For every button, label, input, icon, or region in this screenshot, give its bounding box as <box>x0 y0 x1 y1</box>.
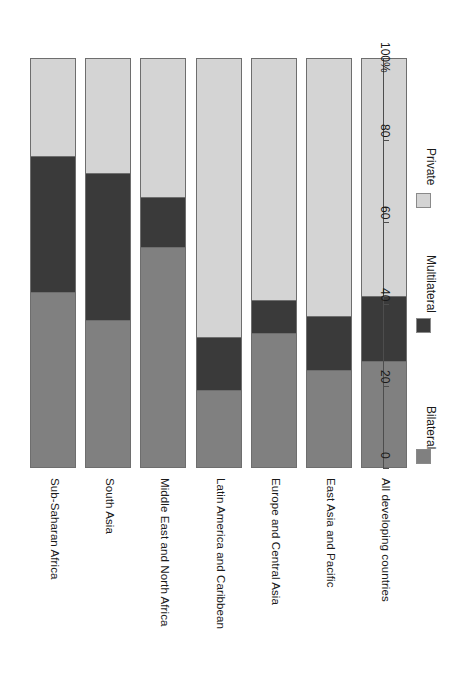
bar-segment-bilateral <box>85 320 131 468</box>
bar-segment-multilateral <box>251 300 297 333</box>
axis-tick <box>383 304 389 305</box>
plot-area: Sub-Saharan AfricaSouth AsiaMiddle East … <box>0 0 380 688</box>
category-label: East Asia and Pacific <box>325 478 337 588</box>
axis-tick <box>383 222 389 223</box>
bar-segment-multilateral <box>140 197 186 246</box>
axis-tick <box>383 468 389 469</box>
stacked-bar-chart: Sub-Saharan AfricaSouth AsiaMiddle East … <box>0 0 466 688</box>
value-axis-line <box>383 58 384 468</box>
bar-segment-multilateral <box>361 296 407 362</box>
bar-segment-private <box>140 58 186 197</box>
category-label: Sub-Saharan Africa <box>49 478 61 580</box>
bar-segment-multilateral <box>196 337 242 390</box>
bar-column: All developing countries <box>361 0 407 688</box>
bar-column: Europe and Central Asia <box>251 0 297 688</box>
bar-segment-multilateral <box>306 316 352 369</box>
bar-segment-private <box>361 58 407 296</box>
chart-legend: BilateralMultilateralPrivate <box>408 0 466 688</box>
axis-tick-label: 60 <box>378 206 392 219</box>
axis-tick-label: 40 <box>378 288 392 301</box>
bar-segment-private <box>196 58 242 337</box>
bar-segment-bilateral <box>196 390 242 468</box>
legend-swatch-private <box>416 193 431 208</box>
legend-label-multilateral: Multilateral <box>424 255 438 313</box>
bar-column: Latin America and Caribbean <box>196 0 242 688</box>
axis-tick <box>383 140 389 141</box>
legend-swatch-multilateral <box>416 318 431 333</box>
bar-segment-multilateral <box>30 156 76 291</box>
category-label: Europe and Central Asia <box>270 478 282 605</box>
axis-tick <box>383 386 389 387</box>
axis-tick-label: 100% <box>378 42 392 73</box>
bar-segment-bilateral <box>30 292 76 468</box>
bar-segment-private <box>85 58 131 173</box>
bar-segment-private <box>306 58 352 316</box>
bar-column: East Asia and Pacific <box>306 0 352 688</box>
category-label: Latin America and Caribbean <box>215 478 227 629</box>
category-label: South Asia <box>104 478 116 534</box>
bar-segment-bilateral <box>306 370 352 468</box>
bar-segment-private <box>30 58 76 156</box>
bar-column: Sub-Saharan Africa <box>30 0 76 688</box>
bar-column: South Asia <box>85 0 131 688</box>
legend-swatch-bilateral <box>416 449 431 464</box>
bar-segment-multilateral <box>85 173 131 321</box>
category-label: Middle East and North Africa <box>159 478 171 627</box>
category-label: All developing countries <box>380 478 392 602</box>
bar-segment-private <box>251 58 297 300</box>
axis-tick-label: 20 <box>378 370 392 383</box>
legend-label-bilateral: Bilateral <box>424 406 438 449</box>
bar-segment-bilateral <box>251 333 297 468</box>
axis-tick-label: 0 <box>378 452 392 459</box>
legend-label-private: Private <box>424 148 438 185</box>
bar-column: Middle East and North Africa <box>140 0 186 688</box>
axis-tick-label: 80 <box>378 124 392 137</box>
bar-segment-bilateral <box>140 247 186 468</box>
